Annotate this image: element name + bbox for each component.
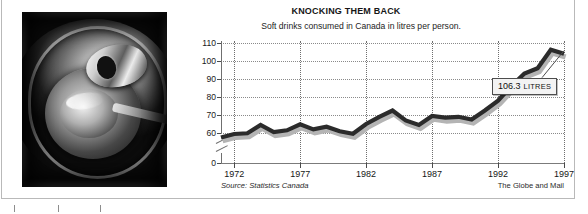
y-tick-label: 100	[202, 56, 216, 66]
soda-can-photo	[22, 12, 167, 187]
callout-value: 106.3	[498, 81, 521, 91]
bottom-tick	[14, 205, 15, 212]
x-tick-label: 1982	[356, 169, 376, 179]
x-tick-label: 1997	[554, 169, 574, 179]
chart-subtitle: Soft drinks consumed in Canada in litres…	[196, 21, 526, 31]
x-tick-mark	[564, 163, 565, 168]
x-tick-label: 1972	[224, 169, 244, 179]
bottom-tick-row	[0, 205, 588, 214]
y-tick-label: 110	[202, 38, 216, 48]
x-tick-label: 1987	[422, 169, 442, 179]
y-tick-label: 70	[206, 110, 216, 120]
y-tick-label: 80	[206, 92, 216, 102]
chart: KNOCKING THEM BACK Soft drinks consumed …	[196, 0, 574, 199]
x-tick-label: 1992	[488, 169, 508, 179]
chart-title: KNOCKING THEM BACK	[196, 6, 496, 16]
bottom-tick	[100, 205, 101, 212]
y-tick-label: 60	[206, 128, 216, 138]
x-tick-label: 1977	[290, 169, 310, 179]
credit-note: The Globe and Mail	[498, 181, 564, 190]
bottom-tick	[58, 205, 59, 212]
infographic-figure: KNOCKING THEM BACK Soft drinks consumed …	[0, 0, 588, 214]
series-line	[221, 41, 564, 165]
callout-unit: LITRES	[524, 82, 552, 91]
value-callout: 106.3LITRES	[492, 78, 557, 95]
source-note: Source: Statistics Canada	[221, 181, 308, 190]
plot-area: 060708090100110 197219771982198719921997…	[221, 41, 564, 165]
photo-image	[22, 12, 167, 187]
y-tick-label: 90	[206, 74, 216, 84]
y-tick-label: 0	[211, 158, 216, 168]
